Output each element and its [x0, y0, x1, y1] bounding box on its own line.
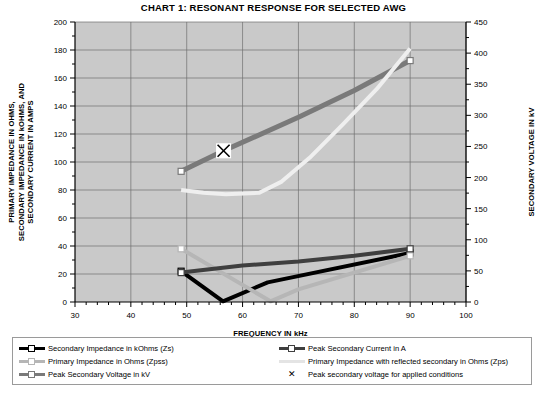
series-endpoint-marker-peak_voltage [178, 168, 184, 174]
legend-item-peak-voltage: Peak Secondary Voltage in kV [19, 368, 274, 381]
tick-label-bottom: 50 [182, 311, 191, 320]
series-endpoint-marker-peak_current [178, 270, 184, 276]
legend-label-zs: Secondary Impedance in kOhms (Zs) [48, 343, 174, 354]
y-axis-title-left: SECONDARY CURRENT IN AMPS [26, 100, 35, 223]
x-marker-icon: ✕ [279, 369, 305, 380]
chart-plot: 0204060801001201401601802000501001502002… [0, 0, 547, 395]
y-axis-title-left: SECONDARY IMPEDANCE IN kOHMS, AND [17, 82, 26, 241]
legend-item-marker-x: ✕ Peak secondary voltage for applied con… [279, 368, 529, 381]
tick-label-bottom: 80 [350, 311, 359, 320]
tick-label-left: 20 [58, 270, 67, 279]
legend-item-zps: Primary Impedance with reflected seconda… [279, 355, 529, 368]
tick-label-left: 140 [54, 102, 68, 111]
tick-label-left: 160 [54, 74, 68, 83]
legend-swatch-zpss [19, 356, 45, 367]
tick-label-right: 400 [474, 49, 488, 58]
tick-label-right: 0 [474, 298, 479, 307]
legend-swatch-peak-current [279, 343, 305, 354]
legend-swatch-peak-voltage [19, 369, 45, 380]
tick-label-bottom: 30 [71, 311, 80, 320]
legend-swatch-zps [279, 356, 305, 367]
tick-label-left: 60 [58, 214, 67, 223]
tick-label-left: 80 [58, 186, 67, 195]
legend-column-left: Secondary Impedance in kOhms (Zs) Primar… [19, 342, 274, 381]
legend-item-zs: Secondary Impedance in kOhms (Zs) [19, 342, 274, 355]
series-endpoint-marker-peak_voltage [407, 58, 413, 64]
tick-label-left: 200 [54, 18, 68, 27]
tick-label-bottom: 40 [126, 311, 135, 320]
tick-label-left: 0 [63, 298, 68, 307]
tick-label-left: 40 [58, 242, 67, 251]
tick-label-right: 450 [474, 18, 488, 27]
tick-label-right: 350 [474, 80, 488, 89]
chart-legend: Secondary Impedance in kOhms (Zs) Primar… [12, 337, 532, 385]
legend-item-zpss: Primary Impedance in Ohms (Zpss) [19, 355, 274, 368]
tick-label-right: 50 [474, 267, 483, 276]
tick-label-right: 300 [474, 111, 488, 120]
tick-label-bottom: 70 [294, 311, 303, 320]
legend-label-zpss: Primary Impedance in Ohms (Zpss) [48, 356, 168, 367]
y-axis-title-left: PRIMARY IMPEDANCE IN OHMS, [7, 101, 16, 223]
legend-label-peak-voltage: Peak Secondary Voltage in kV [48, 369, 150, 380]
tick-label-left: 120 [54, 130, 68, 139]
series-endpoint-marker-zpss [407, 253, 413, 259]
legend-label-peak-current: Peak Secondary Current in A [308, 343, 406, 354]
legend-swatch-zs [19, 343, 45, 354]
tick-label-right: 250 [474, 142, 488, 151]
tick-label-bottom: 60 [238, 311, 247, 320]
y-axis-title-right: SECONDARY VOLTAGE IN kV [527, 107, 536, 217]
legend-label-zps: Primary Impedance with reflected seconda… [308, 356, 508, 367]
series-endpoint-marker-peak_current [407, 246, 413, 252]
tick-label-bottom: 100 [459, 311, 473, 320]
tick-label-left: 100 [54, 158, 68, 167]
legend-column-right: Peak Secondary Current in A Primary Impe… [279, 342, 529, 381]
tick-label-right: 150 [474, 205, 488, 214]
legend-label-marker-x: Peak secondary voltage for applied condi… [308, 369, 463, 380]
legend-item-peak-current: Peak Secondary Current in A [279, 342, 529, 355]
tick-label-right: 200 [474, 174, 488, 183]
chart-container: CHART 1: RESONANT RESPONSE FOR SELECTED … [0, 0, 547, 395]
tick-label-right: 100 [474, 236, 488, 245]
tick-label-bottom: 90 [406, 311, 415, 320]
series-endpoint-marker-zpss [178, 246, 184, 252]
tick-label-left: 180 [54, 46, 68, 55]
